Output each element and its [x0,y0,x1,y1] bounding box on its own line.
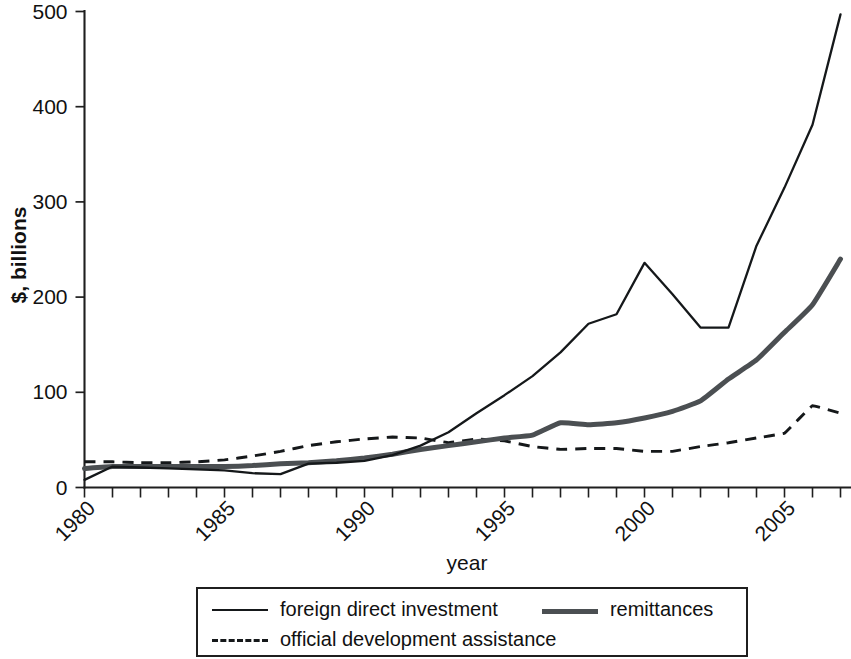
legend-entry-fdi[interactable]: foreign direct investment [212,598,498,621]
legend-swatch-dashed-line-icon [212,632,268,646]
x-tick-label: 1980 [50,496,99,545]
y-tick-label: 300 [32,190,67,213]
y-tick-label: 200 [32,285,67,308]
legend-label-fdi: foreign direct investment [280,598,498,621]
x-axis-tick-labels: 198019851990199520002005 [50,496,799,545]
chart-legend: foreign direct investment remittances of… [196,587,748,657]
legend-entry-remittances[interactable]: remittances [542,598,713,621]
series-line-remittances [85,259,841,468]
legend-entry-oda[interactable]: official development assistance [212,628,556,651]
x-tick-label: 2000 [610,496,659,545]
chart-figure: 0100200300400500 19801985199019952000200… [0,0,851,659]
y-axis-tick-labels: 0100200300400500 [32,0,67,499]
legend-label-oda: official development assistance [280,628,556,651]
line-chart-plot: 0100200300400500 19801985199019952000200… [0,0,851,659]
legend-swatch-line-icon [212,602,268,616]
x-tick-label: 1995 [470,496,519,545]
legend-swatch-thick-line-icon [542,602,598,616]
x-axis-ticks [85,488,841,498]
y-tick-label: 0 [56,476,68,499]
series-layer [85,14,841,480]
y-tick-label: 100 [32,380,67,403]
series-line-foreign [85,14,841,480]
x-tick-label: 1990 [330,496,379,545]
y-tick-label: 500 [32,0,67,23]
x-tick-label: 1985 [190,496,239,545]
series-line-official [85,406,841,463]
x-axis-title: year [447,551,488,574]
legend-row-2: official development assistance [198,624,746,654]
y-axis-title: $, billions [7,207,30,304]
y-axis-ticks [76,12,85,488]
y-tick-label: 400 [32,95,67,118]
x-tick-label: 2005 [750,496,799,545]
legend-label-remittances: remittances [610,598,713,621]
legend-row-1: foreign direct investment remittances [198,594,746,624]
